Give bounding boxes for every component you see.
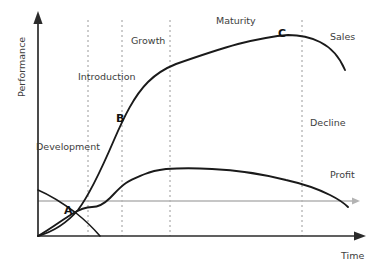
stage-label-introduction: Introduction <box>78 72 136 82</box>
y-axis-label: Performance <box>17 37 27 97</box>
point-label-c: C <box>278 28 286 39</box>
series-label-sales: Sales <box>330 32 355 42</box>
y-axis <box>33 11 42 236</box>
x-axis <box>38 231 366 240</box>
stage-label-maturity: Maturity <box>216 16 256 26</box>
stage-label-development: Development <box>36 142 100 152</box>
x-axis-label: Time <box>341 251 364 261</box>
product-life-cycle-diagram: Performance Time Development Introductio… <box>0 0 377 274</box>
stage-label-growth: Growth <box>131 36 165 46</box>
sales-curve <box>38 35 345 236</box>
plot-canvas <box>0 0 377 274</box>
series-label-profit: Profit <box>330 170 355 180</box>
stage-label-decline: Decline <box>310 118 346 128</box>
point-label-a: A <box>64 205 73 216</box>
point-label-b: B <box>116 113 124 124</box>
